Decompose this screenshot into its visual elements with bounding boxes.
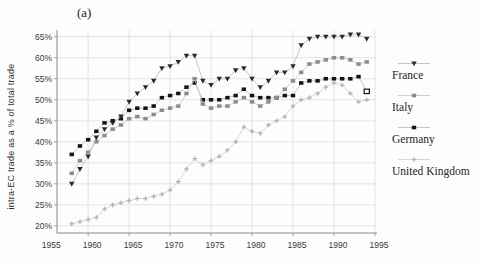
data-point-square	[283, 87, 287, 91]
data-point-square	[184, 85, 188, 89]
y-axis-title: intra-EC trade as a % of total trade	[6, 64, 16, 210]
data-point-square	[412, 94, 416, 98]
data-point-plus	[151, 194, 156, 199]
x-tick-labels: 195519601965197019751980198519901995	[42, 240, 389, 250]
data-point-square	[258, 104, 262, 108]
data-point-plus	[307, 95, 312, 100]
legend-marker-france-icon	[392, 58, 436, 69]
data-point-plus	[209, 158, 214, 163]
data-point-triangle	[126, 100, 131, 105]
data-point-plus	[78, 219, 83, 224]
legend-marker-italy-icon	[392, 90, 436, 101]
data-point-square	[225, 104, 229, 108]
legend-label-germany: Germany	[392, 133, 478, 146]
data-point-square	[78, 159, 82, 163]
data-point-square	[209, 98, 213, 102]
data-point-plus	[110, 203, 115, 208]
data-point-square	[225, 96, 229, 100]
data-point-square	[209, 106, 213, 110]
data-point-square	[217, 98, 221, 102]
y-tick-label: 30%	[35, 179, 52, 189]
data-point-triangle	[307, 37, 312, 42]
data-point-square	[151, 104, 155, 108]
data-point-square	[412, 126, 416, 130]
legend: FranceItalyGermanyUnited Kingdom	[392, 58, 478, 186]
data-point-square	[160, 108, 164, 112]
data-point-square	[70, 153, 74, 157]
data-point-plus	[250, 129, 255, 134]
data-point-square	[102, 134, 106, 138]
x-tick-label: 1955	[42, 240, 61, 250]
y-tick-label: 40%	[35, 137, 52, 147]
data-point-plus	[69, 221, 74, 226]
data-point-square	[332, 77, 336, 81]
data-point-square	[111, 127, 115, 131]
legend-marker-united-kingdom-icon	[392, 154, 436, 165]
data-point-plus	[119, 200, 124, 205]
data-point-square	[143, 106, 147, 110]
data-point-triangle	[200, 79, 205, 84]
y-tick-labels: 20%25%30%35%40%45%50%55%60%65%	[35, 32, 52, 231]
data-point-square	[176, 104, 180, 108]
data-point-square	[332, 56, 336, 60]
data-point-square	[201, 102, 205, 106]
data-point-square	[119, 123, 123, 127]
data-point-plus	[412, 157, 417, 162]
legend-marker-germany-icon	[392, 122, 436, 133]
series-line-germany	[72, 77, 367, 155]
x-tick-label: 1980	[247, 240, 266, 250]
data-point-triangle	[298, 43, 303, 48]
data-point-square	[258, 96, 262, 100]
x-tick-label: 1970	[165, 240, 184, 250]
data-point-square	[340, 77, 344, 81]
data-point-plus	[274, 118, 279, 123]
y-tick-label: 55%	[35, 74, 52, 84]
legend-item-germany: Germany	[392, 122, 478, 146]
data-point-plus	[143, 196, 148, 201]
data-point-square	[94, 129, 98, 133]
data-point-triangle	[258, 85, 263, 90]
data-point-square	[160, 96, 164, 100]
data-point-triangle	[208, 83, 213, 88]
axes	[57, 30, 377, 233]
legend-item-united-kingdom: United Kingdom	[392, 154, 478, 178]
data-point-square	[266, 100, 270, 104]
legend-item-italy: Italy	[392, 90, 478, 114]
data-point-plus	[160, 192, 165, 197]
data-point-square	[291, 94, 295, 98]
data-point-triangle	[110, 121, 115, 126]
x-tick-label: 1990	[329, 240, 348, 250]
data-point-square	[217, 104, 221, 108]
data-point-square	[242, 96, 246, 100]
y-tick-label: 45%	[35, 116, 52, 126]
data-point-square	[135, 115, 139, 119]
data-point-square	[348, 58, 352, 62]
data-point-square	[307, 79, 311, 83]
legend-label-italy: Italy	[392, 101, 478, 114]
x-tick-label: 1995	[369, 240, 388, 250]
x-tick-label: 1960	[83, 240, 102, 250]
data-point-square	[168, 94, 172, 98]
data-point-plus	[135, 196, 140, 201]
data-point-square	[184, 92, 188, 96]
data-point-triangle	[143, 85, 148, 90]
data-point-plus	[364, 97, 369, 102]
data-point-square	[315, 79, 319, 83]
data-point-square	[250, 100, 254, 104]
data-point-plus	[127, 198, 132, 203]
data-point-square	[356, 62, 360, 66]
data-point-triangle	[364, 37, 369, 42]
data-point-square	[78, 144, 82, 148]
data-point-square	[348, 77, 352, 81]
data-point-square	[192, 77, 196, 81]
data-point-square	[168, 106, 172, 110]
data-point-square	[315, 60, 319, 64]
data-point-triangle	[69, 182, 74, 187]
x-tick-label: 1975	[206, 240, 225, 250]
y-tick-label: 20%	[35, 221, 52, 231]
data-point-triangle	[151, 79, 156, 84]
data-point-square	[291, 79, 295, 83]
data-point-square	[151, 113, 155, 117]
data-point-square	[242, 87, 246, 91]
series-line-united-kingdom	[72, 83, 367, 224]
